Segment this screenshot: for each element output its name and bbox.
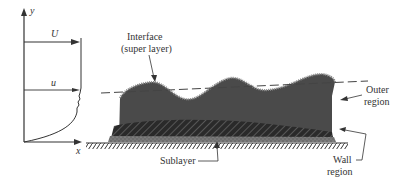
interface-leader-arrow-icon	[151, 75, 157, 82]
y-axis-label: y	[29, 5, 35, 16]
outer-region-leader	[345, 95, 362, 99]
x-axis-label: x	[75, 145, 81, 156]
y-axis-arrow-icon	[21, 8, 27, 16]
outer-region-label-line1: Outer	[366, 84, 389, 95]
interface-leader	[149, 55, 154, 78]
sublayer-region	[108, 136, 336, 142]
wall-region-label-line1: Wall	[333, 154, 352, 165]
velocity-profile: y x U u	[21, 5, 82, 156]
local-velocity-label: u	[51, 77, 56, 88]
boundary-layer-diagram: y x U u Interface (super layer)	[0, 0, 409, 188]
interface-label-line1: Interface	[127, 31, 163, 42]
freestream-label: U	[51, 28, 59, 39]
freestream-arrow-icon	[71, 39, 80, 45]
outer-region-label-line2: region	[364, 96, 390, 107]
local-velocity-arrow-icon	[72, 88, 80, 92]
interface-label-line2: (super layer)	[121, 43, 172, 55]
sublayer-label: Sublayer	[160, 155, 196, 166]
wall-region-leader-arrow-icon	[339, 127, 346, 132]
wall-region-label-line2: region	[327, 166, 353, 177]
outer-region-leader-arrow-icon	[340, 96, 348, 101]
